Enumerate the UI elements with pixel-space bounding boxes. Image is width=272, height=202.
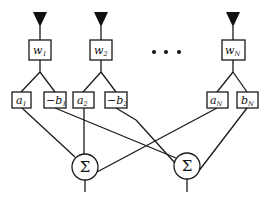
summer-1: Σ — [72, 154, 98, 180]
antenna-n-icon — [226, 12, 240, 27]
ellipsis-dots — [152, 50, 181, 54]
beamforming-diagram: w1 w2 wN a1 −b1 a2 −b2 aN bN Σ — [0, 0, 272, 202]
wire-a1-sum1 — [22, 108, 75, 157]
coef-box-a2: a2 — [73, 92, 94, 108]
split-nb — [233, 72, 247, 92]
coef-box-neg-b2: −b2 — [105, 92, 127, 108]
wire-b2-sum2a — [116, 108, 136, 120]
split-na — [217, 72, 233, 92]
coef-box-bn: bN — [237, 92, 258, 108]
coef-box-an: aN — [207, 92, 228, 108]
sigma-icon: Σ — [80, 158, 91, 176]
weight-box-n: wN — [222, 40, 245, 60]
wire-b1-sum2 — [55, 108, 176, 158]
wire-b2-sum2b — [136, 120, 175, 163]
coef-box-a1: a1 — [12, 92, 31, 108]
split-1a — [21, 72, 40, 92]
split-2a — [83, 72, 101, 92]
coef-box-neg-b1: −b1 — [44, 92, 66, 108]
sigma-icon: Σ — [182, 157, 193, 175]
summer-2: Σ — [174, 153, 200, 179]
split-1b — [40, 72, 55, 92]
antenna-1-icon — [33, 12, 47, 27]
wire-bn-sum2 — [198, 108, 247, 172]
split-2b — [101, 72, 116, 92]
weight-box-2: w2 — [90, 40, 112, 60]
antenna-2-icon — [94, 12, 108, 27]
weight-box-1: w1 — [29, 40, 51, 60]
